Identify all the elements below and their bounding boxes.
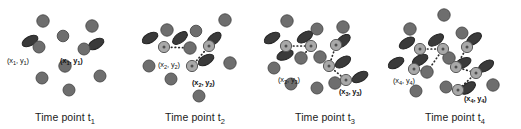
- round-cell: [487, 79, 499, 91]
- hub-cell: [280, 40, 291, 51]
- round-cell: [337, 21, 349, 33]
- round-cell: [94, 70, 106, 82]
- rod-cell: [397, 35, 416, 52]
- hub-cell: [450, 61, 461, 72]
- hub-cell: [203, 40, 214, 51]
- round-cell: [36, 72, 48, 84]
- round-cell: [295, 52, 307, 64]
- round-cell: [190, 25, 202, 37]
- round-cell: [143, 60, 155, 72]
- panel-caption-t1: Time point t1: [0, 111, 130, 126]
- round-cell: [86, 20, 98, 32]
- rod-cell: [350, 69, 370, 85]
- coordinate-label: (x1, y1): [60, 56, 83, 66]
- round-cell: [311, 23, 323, 35]
- round-cell: [33, 41, 45, 53]
- hub-cell: [323, 60, 334, 71]
- round-cell: [311, 82, 323, 94]
- rod-cell: [140, 30, 159, 47]
- round-cell: [224, 57, 236, 69]
- round-cell: [63, 84, 75, 96]
- panel-t4: (x4, y4)(x4, y4)Time point t4: [390, 0, 520, 129]
- hub-cell: [330, 39, 341, 50]
- round-cell: [404, 23, 416, 35]
- round-cell: [456, 27, 468, 39]
- round-cell: [314, 51, 326, 63]
- coordinate-label: (x2, y2): [192, 78, 215, 88]
- round-cell: [78, 43, 90, 55]
- rod-cell: [262, 30, 281, 47]
- round-cell: [57, 30, 69, 42]
- round-cell: [219, 14, 231, 26]
- hub-cell: [470, 67, 481, 78]
- hub-cell: [186, 60, 197, 71]
- coordinate-label: (x3, y3): [339, 87, 362, 97]
- rod-cell: [196, 52, 215, 69]
- coordinate-label: (x2, y2): [158, 60, 180, 70]
- panel-t3: (x3, y3)(x3, y3)Time point t3: [260, 0, 390, 129]
- round-cell: [193, 90, 205, 102]
- hub-cell: [437, 43, 448, 54]
- cell-field-t3: [260, 0, 390, 104]
- coordinate-label: (x4, y4): [464, 94, 487, 104]
- time-series-figure: (x1, y1)(x1, y1)Time point t1(x2, y2)(x2…: [0, 0, 521, 129]
- hub-cell: [305, 40, 316, 51]
- hub-cell: [452, 84, 463, 95]
- round-cell: [37, 15, 49, 27]
- coordinate-label: (x3, y3): [278, 75, 300, 85]
- rod-cell: [333, 54, 352, 71]
- round-cell: [165, 73, 177, 85]
- rod-cell: [386, 55, 405, 72]
- hub-cell: [408, 63, 419, 74]
- round-cell: [410, 85, 422, 97]
- round-cell: [268, 62, 280, 74]
- panel-caption-t3: Time point t3: [260, 111, 390, 126]
- round-cell: [440, 81, 452, 93]
- hub-cell: [461, 41, 472, 52]
- panel-t1: (x1, y1)(x1, y1)Time point t1: [0, 0, 130, 129]
- hub-cell: [158, 41, 169, 52]
- cell-field-t4: [390, 0, 520, 104]
- cell-field-t1: [0, 0, 130, 104]
- coordinate-label: (x1, y1): [7, 56, 29, 66]
- panel-t2: (x2, y2)(x2, y2)Time point t2: [130, 0, 260, 129]
- round-cell: [161, 24, 173, 36]
- round-cell: [281, 15, 293, 27]
- coordinate-label: (x4, y4): [393, 76, 415, 86]
- hub-cell: [414, 43, 425, 54]
- hub-cell: [340, 74, 351, 85]
- panel-caption-t4: Time point t4: [390, 111, 520, 126]
- round-cell: [438, 9, 450, 21]
- panel-caption-t2: Time point t2: [130, 111, 260, 126]
- round-cell: [184, 42, 196, 54]
- round-cell: [421, 66, 433, 78]
